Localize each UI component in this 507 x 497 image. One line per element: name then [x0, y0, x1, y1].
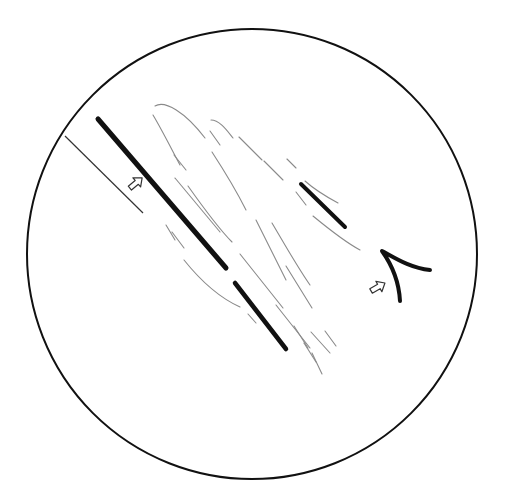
field-circle — [27, 29, 477, 479]
thick-streak-3 — [301, 184, 345, 227]
thick-streak-2 — [235, 283, 286, 349]
pointer-line — [65, 136, 143, 213]
caret-mark — [382, 251, 430, 301]
field-of-view-drawing — [0, 0, 507, 497]
arrow-indicator-1-icon — [126, 173, 146, 192]
thick-streak-1 — [98, 119, 226, 268]
faint-streaks — [153, 104, 360, 374]
arrow-indicator-2-icon — [368, 278, 388, 296]
diagram-canvas — [0, 0, 507, 497]
